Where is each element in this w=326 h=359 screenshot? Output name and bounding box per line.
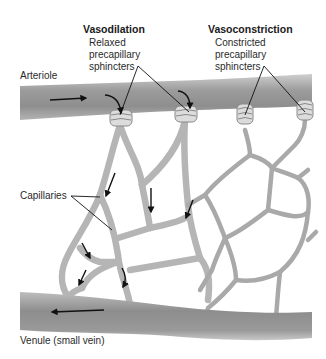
venule-vessel [20,292,312,340]
vasodilation-desc-2: precapillary [89,49,140,61]
venule-label: Venule (small vein) [20,335,104,347]
vasoconstriction-title: Vasoconstriction [208,23,293,35]
arteriole-vessel [20,74,312,120]
vasodilation-title: Vasodilation [83,23,145,35]
vasoconstriction-desc-2: precapillary [215,49,266,61]
arteriole-label: Arteriole [20,70,57,82]
vasoconstriction-desc-3: sphincters [215,61,261,73]
vasoconstriction-desc-1: Constricted [215,37,266,49]
vasodilation-desc-3: sphincters [89,61,135,73]
microcirculation-diagram [0,0,326,359]
sphincter-constricted-2 [297,100,313,120]
sphincter-relaxed-2 [175,106,197,122]
capillaries-label: Capillaries [20,190,67,202]
vasodilation-desc-1: Relaxed [89,37,126,49]
